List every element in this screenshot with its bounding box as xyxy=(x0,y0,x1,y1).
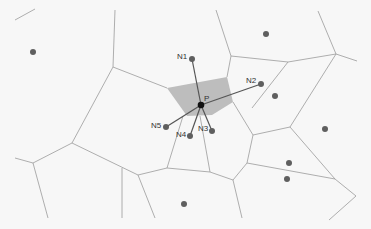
neighbor-point-n2 xyxy=(258,81,264,87)
voronoi-edge xyxy=(72,67,113,143)
voronoi-edge xyxy=(329,196,356,220)
voronoi-edge xyxy=(335,179,356,196)
neighbor-label-n3: N3 xyxy=(198,124,209,133)
voronoi-edge xyxy=(216,10,231,56)
voronoi-svg: N1N2N3N4N5 P xyxy=(0,0,371,229)
highlighted-cell-p xyxy=(167,77,233,116)
neighbor-point-n5 xyxy=(163,124,169,130)
voronoi-edge xyxy=(210,172,233,180)
neighbor-label-n2: N2 xyxy=(246,76,257,85)
site-point xyxy=(286,160,292,166)
voronoi-edge xyxy=(318,11,336,54)
voronoi-edge xyxy=(33,163,48,218)
voronoi-edge xyxy=(113,67,167,88)
voronoi-edge xyxy=(336,54,357,61)
center-label: P xyxy=(204,94,209,103)
site-point xyxy=(284,176,290,182)
voronoi-edge xyxy=(233,180,242,218)
voronoi-edge xyxy=(233,102,253,135)
voronoi-edge xyxy=(227,56,231,77)
voronoi-edge xyxy=(33,143,72,163)
voronoi-edge xyxy=(15,158,33,163)
voronoi-edge xyxy=(307,54,336,100)
site-point xyxy=(263,31,269,37)
voronoi-edge xyxy=(167,116,183,168)
neighbor-label-n5: N5 xyxy=(151,121,162,130)
voronoi-edge xyxy=(138,175,155,218)
neighbor-label-n1: N1 xyxy=(177,52,188,61)
voronoi-diagram: N1N2N3N4N5 P xyxy=(0,0,371,229)
voronoi-edge xyxy=(167,168,210,172)
neighbor-label-n4: N4 xyxy=(176,130,187,139)
voronoi-edge xyxy=(138,168,167,175)
voronoi-edge xyxy=(290,127,335,179)
voronoi-edge xyxy=(15,9,35,20)
neighbor-point-n4 xyxy=(187,133,193,139)
voronoi-edge xyxy=(231,56,288,62)
voronoi-edge xyxy=(233,163,247,180)
site-point xyxy=(322,126,328,132)
site-point xyxy=(181,201,187,207)
voronoi-edge xyxy=(253,127,290,135)
voronoi-edge xyxy=(72,143,138,175)
voronoi-edge xyxy=(290,100,307,127)
neighbor-point-n1 xyxy=(189,56,195,62)
neighbor-point-n3 xyxy=(209,128,215,134)
voronoi-edge xyxy=(247,135,253,163)
site-point xyxy=(272,93,278,99)
voronoi-edge xyxy=(288,54,336,62)
site-point xyxy=(30,49,36,55)
voronoi-edge xyxy=(113,10,115,67)
voronoi-edge xyxy=(247,163,335,179)
